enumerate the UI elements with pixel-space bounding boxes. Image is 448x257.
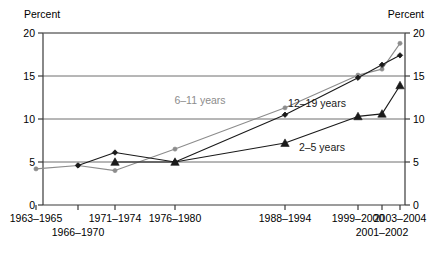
data-series-group — [34, 41, 404, 172]
y-axis-left: 05101520 — [23, 27, 43, 211]
series-annotation-label: 2–5 years — [299, 141, 345, 153]
x-axis-label: 1988–1994 — [259, 212, 312, 224]
y-axis-title-right: Percent — [388, 8, 424, 20]
series-annotations: 6–11 years12–19 years2–5 years — [174, 94, 345, 153]
data-point-marker — [378, 110, 386, 118]
x-axis-ticks — [36, 205, 400, 210]
series-line — [78, 55, 400, 165]
y-tick-label-right: 20 — [413, 27, 425, 39]
data-point-marker — [396, 81, 404, 89]
y-tick-label-left: 20 — [23, 27, 35, 39]
data-point-marker — [75, 163, 80, 168]
line-chart-canvas: Percent Percent 05101520 05101520 1963–1… — [0, 0, 448, 257]
data-point-marker — [283, 106, 287, 110]
series-line — [115, 85, 400, 162]
y-tick-label-right: 5 — [413, 156, 419, 168]
y-tick-label-left: 5 — [29, 156, 35, 168]
series-annotation-label: 12–19 years — [288, 97, 346, 109]
data-point-marker — [282, 112, 287, 117]
y-axis-right: 05101520 — [405, 27, 425, 211]
data-point-marker — [112, 150, 117, 155]
data-point-marker — [173, 147, 177, 151]
data-point-marker — [34, 167, 38, 171]
series-annotation-label: 6–11 years — [174, 94, 225, 106]
x-axis-label: 1976–1980 — [149, 212, 202, 224]
y-tick-label-left: 0 — [29, 199, 35, 211]
x-axis-label: 1963–1965 — [10, 212, 63, 224]
series-2-5-years — [111, 81, 404, 165]
y-tick-label-right: 15 — [413, 70, 425, 82]
data-point-marker — [113, 169, 117, 173]
x-axis-label: 1971–1974 — [89, 212, 142, 224]
y-tick-label-left: 15 — [23, 70, 35, 82]
y-tick-label-right: 10 — [413, 113, 425, 125]
data-point-marker — [397, 53, 402, 58]
chart-figure: Percent Percent 05101520 05101520 1963–1… — [0, 0, 448, 257]
x-axis-label: 2001–2002 — [356, 226, 409, 238]
x-axis-labels: 1963–19651966–19701971–19741976–19801988… — [10, 212, 427, 238]
data-point-marker — [398, 41, 402, 45]
y-tick-label-left: 10 — [23, 113, 35, 125]
y-tick-label-right: 0 — [413, 199, 419, 211]
x-axis-label: 2003–2004 — [374, 212, 427, 224]
data-point-marker — [281, 139, 289, 147]
series-6-11-years — [34, 41, 402, 172]
x-axis-label: 1966–1970 — [52, 226, 105, 238]
y-axis-title-left: Percent — [24, 8, 60, 20]
